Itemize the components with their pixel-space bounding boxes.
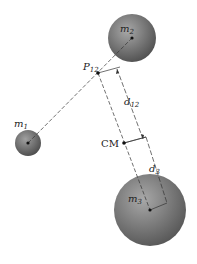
d3-tick-top: [124, 137, 146, 143]
label-m1: m1: [14, 118, 28, 131]
cm-dot: [122, 141, 126, 145]
label-p12: P12: [82, 61, 99, 74]
m2-center-dot: [130, 36, 133, 39]
m3-center-dot: [148, 208, 151, 211]
label-cm: CM: [101, 138, 119, 149]
label-d12: d12: [124, 96, 140, 109]
line-m1-m2: [28, 38, 132, 143]
center-of-mass-diagram: m2 m1 m3 P12 CM d12 d3: [0, 0, 197, 264]
m1-center-dot: [26, 141, 29, 144]
